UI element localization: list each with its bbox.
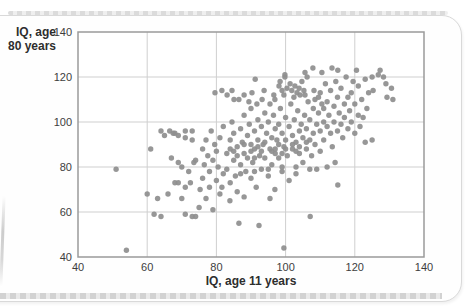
data-point: [209, 128, 214, 133]
data-point: [311, 88, 316, 93]
data-point: [210, 207, 215, 212]
data-point: [252, 169, 257, 174]
data-point: [279, 131, 284, 136]
data-point: [328, 131, 333, 136]
data-point: [231, 97, 236, 102]
data-point: [276, 83, 281, 88]
data-point: [343, 74, 348, 79]
data-point: [219, 185, 224, 190]
data-point: [311, 131, 316, 136]
data-point: [255, 144, 260, 149]
data-point: [289, 88, 294, 93]
data-point: [331, 104, 336, 109]
data-point: [238, 126, 243, 131]
data-point: [345, 95, 350, 100]
data-point: [229, 119, 234, 124]
data-point: [236, 97, 241, 102]
x-tick-label: 60: [132, 261, 162, 273]
data-point: [176, 180, 181, 185]
data-point: [224, 151, 229, 156]
data-point: [354, 68, 359, 73]
y-tick-label: 100: [40, 116, 72, 128]
data-point: [196, 205, 201, 210]
data-point: [283, 115, 288, 120]
data-point: [264, 131, 269, 136]
data-point: [228, 180, 233, 185]
data-point: [293, 149, 298, 154]
data-point: [238, 162, 243, 167]
data-point: [162, 133, 167, 138]
data-point: [363, 77, 368, 82]
data-point: [273, 146, 278, 151]
data-point: [261, 88, 266, 93]
data-point: [227, 198, 232, 203]
data-point: [229, 88, 234, 93]
data-point: [245, 155, 250, 160]
data-point: [337, 110, 342, 115]
data-point: [288, 101, 293, 106]
data-point: [215, 164, 220, 169]
data-point: [231, 149, 236, 154]
data-point: [324, 124, 329, 129]
data-point: [326, 113, 331, 118]
data-point: [389, 86, 394, 91]
data-point: [349, 119, 354, 124]
data-point: [363, 140, 368, 145]
data-point: [248, 106, 253, 111]
data-point: [329, 65, 334, 70]
data-point: [253, 77, 258, 82]
data-point: [236, 221, 241, 226]
data-point: [369, 74, 374, 79]
y-tick-label: 140: [40, 26, 72, 38]
data-point: [305, 99, 310, 104]
data-point: [286, 124, 291, 129]
data-point: [183, 135, 188, 140]
data-point: [241, 142, 246, 147]
data-point: [207, 185, 212, 190]
data-point: [300, 135, 305, 140]
data-point: [276, 122, 281, 127]
x-tick-label: 140: [409, 261, 439, 273]
data-point: [310, 65, 315, 70]
data-point: [254, 185, 259, 190]
data-point: [304, 146, 309, 151]
data-point: [314, 167, 319, 172]
data-point: [224, 167, 229, 172]
data-point: [231, 158, 236, 163]
data-point: [333, 79, 338, 84]
data-point: [252, 155, 257, 160]
y-axis-title-line2: 80 years: [4, 39, 56, 53]
data-point: [338, 122, 343, 127]
data-point: [190, 128, 195, 133]
data-point: [321, 137, 326, 142]
data-point: [352, 101, 357, 106]
figure-stage: IQ, age 80 years IQ, age 11 years 406080…: [0, 0, 472, 307]
data-point: [293, 164, 298, 169]
data-point: [249, 90, 254, 95]
data-point: [299, 122, 304, 127]
data-point: [241, 92, 246, 97]
data-point: [342, 101, 347, 106]
data-point: [290, 133, 295, 138]
data-point: [271, 92, 276, 97]
data-point: [282, 72, 287, 77]
data-point: [241, 113, 246, 118]
data-point: [278, 106, 283, 111]
data-point: [286, 178, 291, 183]
data-point: [205, 153, 210, 158]
data-point: [169, 155, 174, 160]
data-point: [330, 144, 335, 149]
data-point: [302, 92, 307, 97]
data-point: [148, 146, 153, 151]
data-point: [321, 106, 326, 111]
data-point: [241, 151, 246, 156]
data-point: [233, 173, 238, 178]
data-point: [352, 131, 357, 136]
data-point: [332, 160, 337, 165]
data-point: [259, 149, 264, 154]
data-point: [356, 83, 361, 88]
data-point: [210, 158, 215, 163]
x-axis-title: IQ, age 11 years: [151, 274, 351, 288]
data-point: [188, 180, 193, 185]
data-point: [335, 128, 340, 133]
